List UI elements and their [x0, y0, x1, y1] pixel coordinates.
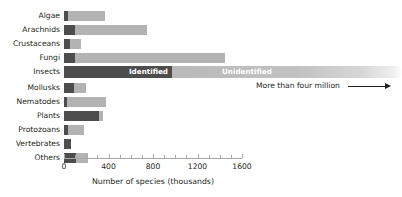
bar-segment-identified — [64, 139, 71, 149]
x-tick-600 — [131, 155, 132, 158]
x-axis-line — [64, 158, 242, 159]
x-tick-900 — [164, 155, 165, 158]
x-tick-label-1600: 1600 — [232, 162, 251, 171]
bar-label-unidentified: Unidentified — [222, 66, 272, 78]
bar-segment-unidentified — [74, 83, 87, 93]
x-tick-1400 — [220, 155, 221, 158]
row-label-protozoans: Protozoans — [0, 124, 60, 136]
row-label-vertebrates: Vertebrates — [0, 138, 60, 150]
bar-segment-unidentified — [68, 125, 84, 135]
bar-segment-identified — [64, 83, 74, 93]
annotation-arrow-line — [348, 86, 386, 87]
row-label-fungi: Fungi — [0, 52, 60, 64]
bar-segment-identified — [64, 111, 99, 121]
annotation-more-than-four-million: More than four million — [256, 80, 340, 92]
row-label-algae: Algae — [0, 10, 60, 22]
x-tick-500 — [120, 155, 121, 158]
bar-segment-identified — [64, 53, 75, 63]
x-tick-1500 — [231, 155, 232, 158]
row-label-plants: Plants — [0, 110, 60, 122]
x-tick-label-1200: 1200 — [188, 162, 207, 171]
x-tick-700 — [142, 155, 143, 158]
x-tick-100 — [75, 155, 76, 158]
row-label-others: Others — [0, 152, 60, 164]
row-label-arachnids: Arachnids — [0, 24, 60, 36]
x-tick-label-400: 400 — [101, 162, 116, 171]
x-tick-200 — [86, 155, 87, 158]
x-tick-800 — [153, 154, 154, 158]
bar-segment-unidentified — [99, 111, 103, 121]
x-tick-0 — [64, 154, 65, 158]
x-tick-300 — [97, 155, 98, 158]
bar-segment-identified: Identified — [64, 66, 172, 78]
bar-segment-unidentified — [75, 25, 147, 35]
row-label-crustaceans: Crustaceans — [0, 38, 60, 50]
x-tick-1300 — [209, 155, 210, 158]
bar-segment-identified — [64, 25, 75, 35]
x-axis-title: Number of species (thousands) — [64, 177, 242, 186]
annotation-arrow-head-icon — [385, 83, 391, 89]
bar-segment-unidentified: Unidentified — [172, 66, 402, 78]
bar-segment-unidentified — [67, 97, 107, 107]
bar-label-identified: Identified — [129, 66, 168, 78]
species-bar-chart: Algae Arachnids Crustaceans Fungi Insect… — [0, 0, 402, 197]
x-tick-1600 — [242, 154, 243, 158]
bar-segment-unidentified — [70, 39, 81, 49]
row-label-insects: Insects — [0, 65, 60, 79]
x-tick-label-800: 800 — [146, 162, 161, 171]
x-tick-label-0: 0 — [62, 162, 67, 171]
bar-segment-unidentified — [68, 11, 105, 21]
bar-segment-unidentified — [75, 53, 225, 63]
x-tick-1200 — [198, 154, 199, 158]
row-label-nematodes: Nematodes — [0, 96, 60, 108]
x-tick-1100 — [186, 155, 187, 158]
row-label-mollusks: Mollusks — [0, 82, 60, 94]
x-tick-400 — [109, 154, 110, 158]
x-tick-1000 — [175, 155, 176, 158]
